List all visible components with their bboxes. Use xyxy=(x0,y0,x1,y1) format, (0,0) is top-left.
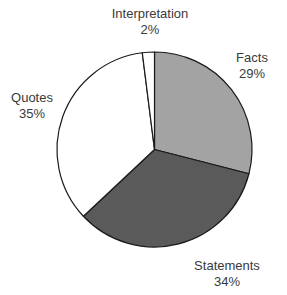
label-interpretation-name: Interpretation xyxy=(112,6,189,22)
label-statements-pct: 34% xyxy=(194,274,260,290)
label-quotes: Quotes 35% xyxy=(11,90,53,122)
label-facts-pct: 29% xyxy=(236,66,268,82)
label-quotes-name: Quotes xyxy=(11,90,53,106)
label-facts: Facts 29% xyxy=(236,50,268,82)
pie-chart xyxy=(0,0,287,295)
pie-slices xyxy=(57,52,252,247)
label-statements: Statements 34% xyxy=(194,258,260,290)
label-statements-name: Statements xyxy=(194,258,260,274)
label-interpretation: Interpretation 2% xyxy=(112,6,189,38)
label-interpretation-pct: 2% xyxy=(112,22,189,38)
label-facts-name: Facts xyxy=(236,50,268,66)
label-quotes-pct: 35% xyxy=(11,106,53,122)
